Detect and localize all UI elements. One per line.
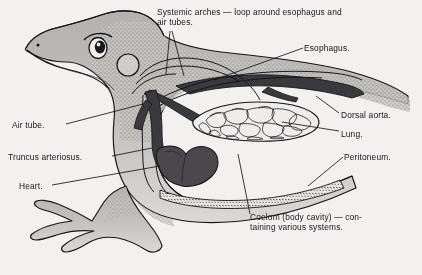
label-esophagus: Esophagus. xyxy=(304,43,350,53)
label-air-tube: Air tube. xyxy=(12,120,45,130)
label-lung: Lung. xyxy=(341,129,363,139)
label-peritoneum: Peritoneum. xyxy=(344,152,391,162)
tympanum xyxy=(117,54,139,76)
anatomy-figure-page: Systemic arches — loop around esophagus … xyxy=(0,0,422,275)
nostril xyxy=(37,44,40,47)
label-systemic-arches: Systemic arches — loop around esophagus … xyxy=(157,7,342,27)
label-truncus-arteriosus: Truncus arteriosus. xyxy=(8,152,82,162)
label-heart: Heart. xyxy=(19,181,43,191)
label-coelom: Coelom (body cavity) — con- taining vari… xyxy=(250,212,362,232)
label-dorsal-aorta: Dorsal aorta. xyxy=(341,110,391,120)
